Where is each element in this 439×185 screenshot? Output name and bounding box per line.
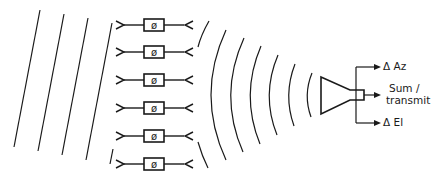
plane-wavefront: [14, 10, 113, 164]
output-arrowheads: [374, 64, 381, 126]
receive-antenna-icon: [116, 160, 124, 168]
wavefront-arc-2: [211, 30, 226, 160]
receive-antenna-icon: [116, 21, 124, 29]
wavefront-arc-3: [231, 38, 244, 152]
transmit-antenna-icon: [185, 132, 193, 140]
wavefront-line-1: [14, 10, 40, 147]
sum-transmit-label-line1: Sum /: [389, 83, 419, 94]
horn-icon: [321, 77, 364, 114]
phase-symbol: ø: [151, 103, 157, 114]
transmit-antenna-icon: [185, 21, 193, 29]
transmit-antenna-icon: [185, 160, 193, 168]
transmit-antenna-icon: [185, 104, 193, 112]
phase-symbol: ø: [151, 47, 157, 58]
arrow-right-icon: [374, 120, 381, 126]
sum-transmit-label-line2: transmit: [386, 95, 430, 106]
phase-symbol: ø: [151, 131, 157, 142]
transmit-antenna-icon: [185, 76, 193, 84]
wavefront-arc-6: [289, 64, 295, 126]
wavefront-arc-1b: [198, 142, 208, 168]
receive-antenna-icon: [116, 132, 124, 140]
wavefront-line-2: [38, 14, 64, 151]
phase-symbol: ø: [151, 20, 157, 31]
spherical-wavefront: [198, 21, 312, 168]
horn-feed: [321, 67, 377, 123]
phase-symbol: ø: [151, 75, 157, 86]
wavefront-line-4-fragment: [110, 149, 113, 164]
arrow-right-icon: [374, 92, 381, 98]
receive-antenna-icon: [116, 104, 124, 112]
phased-array-diagram: ø ø ø ø ø ø: [0, 0, 439, 185]
receive-antenna-icon: [116, 76, 124, 84]
delta-az-label: Δ Az: [383, 61, 406, 72]
transmit-antenna-icon: [185, 48, 193, 56]
wavefront-line-4: [86, 23, 112, 160]
wavefront-arc-5: [269, 55, 278, 135]
wavefront-arc-4: [250, 46, 261, 144]
wavefront-arc-1: [198, 21, 209, 47]
wavefront-line-3: [62, 18, 88, 155]
wavefront-arc-7: [307, 73, 312, 117]
delta-el-label: Δ El: [383, 117, 403, 128]
phase-shifter-labels: ø ø ø ø ø ø: [151, 20, 157, 170]
arrow-right-icon: [374, 64, 381, 70]
phase-symbol: ø: [151, 159, 157, 170]
receive-antenna-icon: [116, 48, 124, 56]
array-elements: [116, 19, 193, 170]
